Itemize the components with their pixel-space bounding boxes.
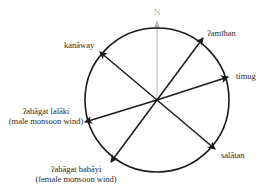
label-abagat-lalaki-group: ʔabāgat lalāki (male monsoon wind) [6, 106, 86, 126]
label-salatan: salātan [221, 150, 245, 160]
label-timug: timug [236, 71, 256, 81]
wind-compass-diagram: N kanāway ʔamīhan timug ʔabāgat lalāki (… [0, 0, 269, 189]
label-abagat-lalaki: ʔabāgat lalāki [6, 106, 86, 116]
label-kanaway: kanāway [64, 40, 94, 50]
arrow-kanaway [100, 52, 157, 100]
label-abagat-babayi: ʔabāgat babāyi [32, 164, 120, 174]
arrow-abagat-babayi [111, 100, 157, 162]
arrow-salatan [157, 100, 215, 149]
sublabel-abagat-lalaki: (male monsoon wind) [6, 116, 86, 126]
arrow-abagat-lalaki [85, 100, 157, 122]
sublabel-abagat-babayi: (female monsoon wind) [32, 174, 120, 184]
label-abagat-babayi-group: ʔabāgat babāyi (female monsoon wind) [32, 164, 120, 184]
arrow-timug [157, 77, 228, 100]
north-arrowhead-icon [154, 20, 160, 28]
label-amihan: ʔamīhan [207, 28, 236, 38]
arrow-amihan [157, 38, 203, 100]
north-label: N [154, 7, 161, 17]
